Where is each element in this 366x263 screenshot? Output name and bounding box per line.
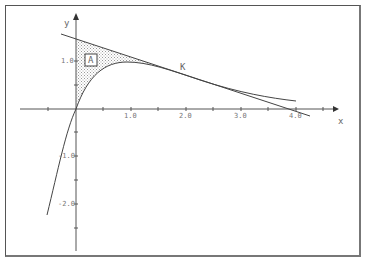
y-axis-arrow-icon [73, 13, 79, 20]
y-tick-label: 1.0 [61, 57, 74, 65]
x-tick-label: 3.0 [234, 112, 247, 120]
label-a: A [88, 55, 94, 65]
y-axis-label: y [64, 18, 70, 28]
label-k: K [180, 62, 186, 72]
x-tick-label: 4.0 [289, 112, 302, 120]
x-axis-label: x [338, 116, 344, 126]
x-tick-label: 1.0 [124, 112, 137, 120]
x-axis-arrow-icon [333, 106, 339, 112]
chart-plot: 1.0 2.0 3.0 4.0 1.0 -1.0 -2.0 x y A K [0, 0, 366, 263]
x-tick-label: 2.0 [179, 112, 192, 120]
shaded-region-a [76, 39, 158, 109]
y-tick-label: -2.0 [58, 200, 75, 208]
